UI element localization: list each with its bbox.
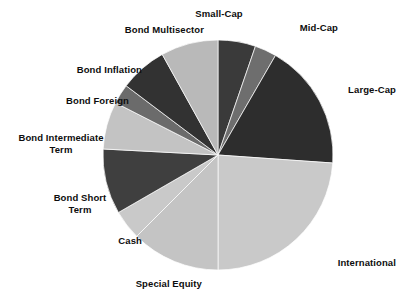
slice-label-special-equity: Special Equity [102, 278, 202, 290]
slice-label-bond-intermediate-term: Bond Intermediate Term [2, 132, 120, 155]
slice-label-bond-foreign: Bond Foreign [37, 95, 129, 107]
slice-label-small-cap: Small-Cap [159, 8, 279, 20]
slice-label-large-cap: Large-Cap [320, 84, 396, 96]
slice-label-mid-cap: Mid-Cap [278, 22, 338, 34]
slice-label-bond-multisector: Bond Multisector [84, 24, 204, 36]
slice-label-international: International [306, 257, 396, 269]
slice-label-bond-inflation: Bond Inflation [50, 64, 142, 76]
pie-chart: Small-Cap Mid-Cap Large-Cap Internationa… [0, 0, 398, 299]
slice-label-cash: Cash [92, 235, 142, 247]
slice-label-bond-short-term: Bond Short Term [39, 192, 121, 215]
pie-slice-international[interactable] [218, 155, 333, 270]
